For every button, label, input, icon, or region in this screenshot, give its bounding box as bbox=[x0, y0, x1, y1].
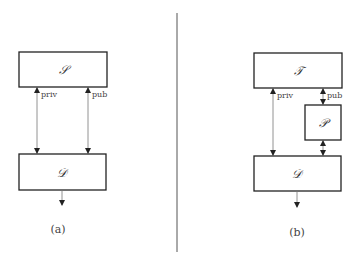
caption-b: (b) bbox=[289, 226, 305, 239]
pub-label-a: pub bbox=[92, 90, 107, 99]
pub-label-b: pub bbox=[327, 91, 342, 100]
caption-a: (a) bbox=[50, 223, 65, 236]
diagram-canvas: 𝒮 𝒟 priv pub (a) 𝒯 𝒫 𝒟 priv pub (b) bbox=[0, 0, 357, 264]
panel-a: 𝒮 𝒟 priv pub (a) bbox=[19, 52, 107, 236]
priv-label-a: priv bbox=[41, 90, 58, 99]
panel-b: 𝒯 𝒫 𝒟 priv pub (b) bbox=[254, 53, 342, 239]
priv-label-b: priv bbox=[277, 91, 294, 100]
